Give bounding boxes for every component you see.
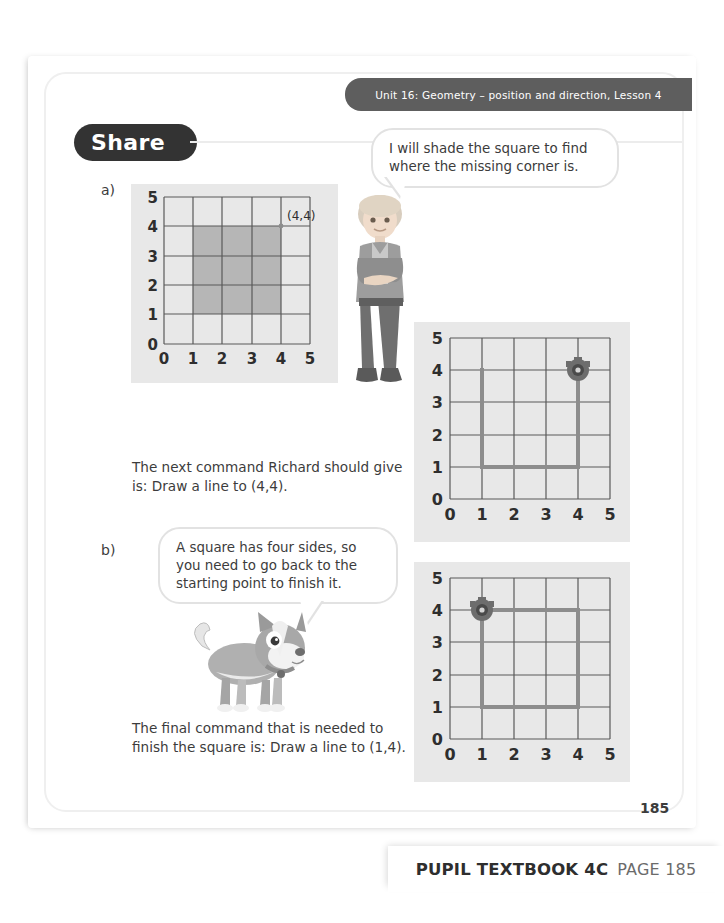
grid-b-robot-path bbox=[482, 370, 578, 467]
svg-text:0: 0 bbox=[159, 350, 169, 368]
svg-text:2: 2 bbox=[217, 350, 227, 368]
page-number: 185 bbox=[640, 800, 669, 816]
svg-text:1: 1 bbox=[188, 350, 198, 368]
svg-text:2: 2 bbox=[432, 426, 443, 445]
grid-c-svg: 5 4 3 2 1 0 0 1 2 3 4 5 bbox=[414, 562, 630, 782]
svg-text:0: 0 bbox=[444, 505, 455, 524]
share-section-tab: Share bbox=[74, 124, 197, 161]
svg-text:0: 0 bbox=[148, 336, 158, 354]
svg-text:1: 1 bbox=[476, 505, 487, 524]
grid-b-svg: 5 4 3 2 1 0 0 1 2 3 4 5 bbox=[414, 322, 630, 542]
svg-text:(4,4): (4,4) bbox=[287, 209, 315, 223]
svg-text:2: 2 bbox=[508, 745, 519, 764]
unit-header-label: Unit 16: Geometry – position and directi… bbox=[375, 89, 662, 101]
robot-icon bbox=[566, 357, 590, 381]
footer-page-label: PAGE 185 bbox=[617, 860, 696, 879]
svg-text:1: 1 bbox=[432, 458, 443, 477]
svg-text:4: 4 bbox=[572, 745, 583, 764]
svg-text:5: 5 bbox=[432, 329, 443, 348]
share-section-label: Share bbox=[74, 130, 165, 155]
svg-text:2: 2 bbox=[508, 505, 519, 524]
svg-text:3: 3 bbox=[432, 633, 443, 652]
svg-text:0: 0 bbox=[444, 745, 455, 764]
svg-text:5: 5 bbox=[432, 569, 443, 588]
coordinate-grid-a: 5 4 3 2 1 0 0 1 2 3 4 5 (4,4) bbox=[131, 184, 338, 383]
coordinate-grid-c: 5 4 3 2 1 0 0 1 2 3 4 5 bbox=[414, 562, 630, 782]
svg-text:2: 2 bbox=[148, 277, 158, 295]
unit-header-bar: Unit 16: Geometry – position and directi… bbox=[345, 78, 692, 111]
grid-c-robot-path bbox=[482, 610, 578, 707]
svg-text:5: 5 bbox=[305, 350, 315, 368]
dog-character-illustration bbox=[186, 612, 318, 716]
svg-text:3: 3 bbox=[540, 745, 551, 764]
grid-a-svg: 5 4 3 2 1 0 0 1 2 3 4 5 (4,4) bbox=[131, 184, 338, 383]
svg-text:0: 0 bbox=[432, 490, 443, 509]
svg-text:0: 0 bbox=[432, 730, 443, 749]
svg-text:3: 3 bbox=[540, 505, 551, 524]
coordinate-grid-b: 5 4 3 2 1 0 0 1 2 3 4 5 bbox=[414, 322, 630, 542]
footer-book-label: PUPIL TEXTBOOK 4C bbox=[416, 860, 609, 879]
robot-icon bbox=[470, 597, 494, 621]
svg-text:4: 4 bbox=[276, 350, 286, 368]
speech-bubble-boy: I will shade the square to find where th… bbox=[371, 128, 619, 188]
svg-text:3: 3 bbox=[148, 248, 158, 266]
footer-bar: PUPIL TEXTBOOK 4C PAGE 185 bbox=[388, 846, 724, 892]
svg-text:5: 5 bbox=[604, 745, 615, 764]
answer-text-b: The final command that is needed to fini… bbox=[132, 719, 422, 758]
section-letter-b: b) bbox=[101, 542, 115, 558]
svg-text:3: 3 bbox=[432, 393, 443, 412]
svg-text:4: 4 bbox=[432, 601, 443, 620]
svg-text:2: 2 bbox=[432, 666, 443, 685]
boy-character-illustration bbox=[344, 192, 422, 392]
section-letter-a: a) bbox=[101, 182, 115, 198]
svg-text:5: 5 bbox=[604, 505, 615, 524]
answer-text-a: The next command Richard should give is:… bbox=[132, 458, 407, 497]
grid-a-shaded-region bbox=[193, 226, 281, 314]
svg-text:1: 1 bbox=[148, 306, 158, 324]
svg-text:1: 1 bbox=[432, 698, 443, 717]
speech-bubble-dog: A square has four sides, so you need to … bbox=[158, 527, 398, 604]
svg-text:5: 5 bbox=[148, 189, 158, 207]
svg-text:4: 4 bbox=[148, 218, 158, 236]
svg-text:4: 4 bbox=[572, 505, 583, 524]
svg-text:4: 4 bbox=[432, 361, 443, 380]
svg-text:1: 1 bbox=[476, 745, 487, 764]
svg-text:3: 3 bbox=[247, 350, 257, 368]
